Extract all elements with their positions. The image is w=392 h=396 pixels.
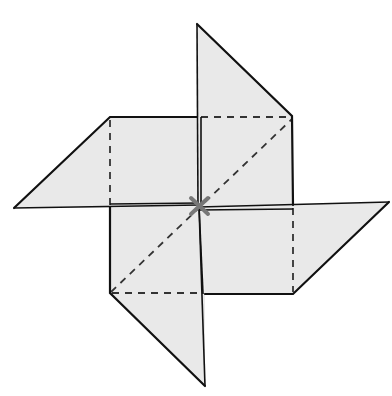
pinwheel-svg: [0, 0, 392, 396]
pinwheel-diagram: [0, 0, 392, 396]
top-flap-fill: [197, 24, 293, 206]
left-flap-fill: [14, 117, 199, 208]
center-horizontal-line-d: [199, 209, 293, 210]
bottom-flap-fill: [110, 206, 205, 386]
center-horizontal-line-b: [110, 203, 199, 204]
center-vertical-line-a: [197, 24, 198, 206]
right-flap-fill: [199, 202, 389, 294]
